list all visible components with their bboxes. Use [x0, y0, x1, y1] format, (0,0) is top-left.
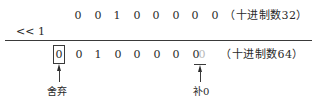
bit-digit: 0: [73, 10, 83, 22]
discard-annotation: 舍弃: [47, 86, 67, 98]
bit-digit: 0: [74, 49, 84, 61]
divider-line: [5, 40, 312, 41]
bit-digit: 0: [190, 10, 200, 22]
bit-digit: 1: [93, 49, 103, 61]
pad-zero-annotation: 补0: [193, 86, 209, 98]
decimal-64-label: （十进制数64）: [220, 49, 304, 61]
bit-digit: 0: [171, 49, 181, 61]
bit-digit: 0: [210, 10, 220, 22]
bit-digit: 0: [151, 10, 161, 22]
padded-zero-bit: 0: [197, 49, 207, 61]
bit-digit: 1: [112, 10, 122, 22]
decimal-32-label: （十进制数32）: [224, 10, 308, 22]
arrow-shaft: [200, 71, 201, 82]
bit-digit: 0: [93, 10, 103, 22]
bit-digit: 0: [132, 49, 142, 61]
bit-digit: 0: [113, 49, 123, 61]
shift-operator: << 1: [16, 26, 45, 38]
arrow-shaft: [59, 70, 60, 82]
discarded-bit: 0: [54, 49, 64, 61]
bit-digit: 0: [152, 49, 162, 61]
bit-digit: 0: [132, 10, 142, 22]
bit-digit: 0: [171, 10, 181, 22]
